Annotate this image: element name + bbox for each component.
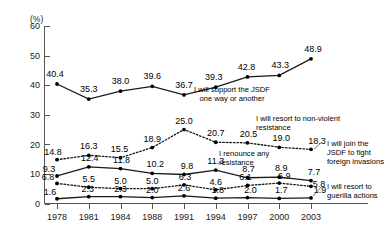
data-point-label: 35.3 [80, 84, 98, 94]
data-point-label: 20.7 [207, 128, 225, 138]
data-point-label: 1.6 [44, 187, 57, 197]
x-tick-label: 2000 [269, 212, 289, 222]
annotation-a2: I will resort to non-violentresistance [256, 114, 341, 132]
data-point-label: 2.0 [244, 185, 257, 195]
data-point-label: 48.9 [304, 44, 322, 54]
y-axis-unit-label: (%) [30, 14, 43, 24]
data-point [87, 165, 91, 169]
chart-canvas: 0102030405060 19781981198419881991199419… [0, 0, 390, 234]
data-point-label: 1.8 [211, 185, 224, 195]
data-point-label: 40.4 [46, 69, 64, 79]
data-point [214, 140, 218, 144]
data-point-label: 42.8 [238, 62, 256, 72]
annotation-line: I will resort to [327, 182, 372, 191]
data-point-label: 6.8 [42, 172, 55, 182]
annotation-line: guerilla actions [327, 191, 378, 200]
data-point [182, 93, 186, 97]
data-point [214, 196, 218, 200]
data-point-label: 14.8 [44, 147, 62, 157]
data-point [182, 128, 186, 132]
data-point [55, 197, 59, 201]
data-point-label: 16.3 [80, 141, 98, 151]
annotation-line: I will resort to non-violent [256, 114, 341, 123]
data-point-label: 20.5 [240, 129, 258, 139]
data-point [246, 75, 250, 79]
y-tick-label: 50 [30, 51, 40, 61]
y-tick-label: 0 [35, 199, 40, 209]
data-point [55, 82, 59, 86]
data-point [119, 89, 123, 93]
data-point-label: 7.7 [308, 167, 321, 177]
data-point [55, 174, 59, 178]
annotation-line: JSDF to fight [327, 148, 372, 157]
x-tick-label: 1991 [174, 212, 194, 222]
annotation-line: I renounce any [219, 149, 269, 158]
x-tick-label: 1981 [79, 212, 99, 222]
data-point-label: 39.6 [143, 71, 161, 81]
data-point-label: 1.7 [275, 185, 288, 195]
data-point-label: 6.1 [239, 172, 252, 182]
data-point-label: 18.3 [308, 136, 326, 146]
data-point-label: 6.9 [278, 171, 291, 181]
data-point [55, 158, 59, 162]
data-point-label: 6.3 [179, 172, 192, 182]
annotation-line: resistance [219, 158, 254, 167]
data-point-label: 10.2 [146, 159, 164, 169]
data-point [246, 196, 250, 200]
data-point-label: 9.8 [181, 161, 194, 171]
data-point-label: 43.3 [271, 60, 289, 70]
data-point [119, 195, 123, 199]
data-point [150, 171, 154, 175]
annotation-line: foreign invasions [327, 157, 384, 166]
data-point-label: 39.3 [205, 72, 223, 82]
data-point [87, 195, 91, 199]
line-chart: 0102030405060 19781981198419881991199419… [0, 0, 390, 234]
annotation-line: I will support the JSDF [194, 85, 270, 94]
y-tick-label: 20 [30, 140, 40, 150]
annotation-line: one way or another [199, 94, 264, 103]
data-point-label: 15.5 [111, 144, 129, 154]
x-axis-ticks: 197819811984198819911994199720002003 [47, 204, 321, 223]
data-point-label: 2.3 [114, 184, 127, 194]
data-point [87, 97, 91, 101]
data-point-label: 19.0 [272, 133, 290, 143]
data-point-label: 12.4 [81, 153, 99, 163]
x-tick-label: 1997 [237, 212, 257, 222]
data-point [309, 147, 313, 151]
annotation-a4: I will join theJSDF to fightforeign inva… [327, 139, 384, 166]
data-point [277, 197, 281, 201]
data-point-label: 36.7 [175, 80, 193, 90]
data-point [119, 167, 123, 171]
annotation-a1: I will support the JSDFone way or anothe… [194, 85, 270, 103]
data-point [55, 181, 59, 185]
x-tick-label: 1984 [110, 212, 130, 222]
annotation-a5: I will resort toguerilla actions [327, 182, 378, 200]
data-point-label: 2.6 [178, 183, 191, 193]
data-point [150, 196, 154, 200]
y-tick-label: 10 [30, 169, 40, 179]
y-tick-label: 30 [30, 110, 40, 120]
data-point [214, 168, 218, 172]
data-point-label: 25.0 [175, 116, 193, 126]
data-point [277, 181, 281, 185]
x-tick-label: 1978 [47, 212, 67, 222]
data-point [309, 196, 313, 200]
x-tick-label: 1988 [142, 212, 162, 222]
data-point-label: 2.0 [146, 185, 159, 195]
data-point [309, 57, 313, 61]
y-tick-label: 40 [30, 80, 40, 90]
data-point [277, 145, 281, 149]
data-point [150, 146, 154, 150]
data-point-label: 38.0 [112, 76, 130, 86]
data-point-label: 18.9 [143, 134, 161, 144]
data-point [246, 141, 250, 145]
annotation-line: resistance [256, 123, 291, 132]
x-tick-label: 2003 [301, 212, 321, 222]
data-point-label: 2.3 [81, 184, 94, 194]
annotation-a3: I renounce anyresistance [219, 149, 269, 167]
data-point-label: 11.8 [113, 155, 130, 165]
annotation-line: I will join the [327, 139, 368, 148]
data-point [182, 194, 186, 198]
data-point [277, 74, 281, 78]
x-tick-label: 1994 [206, 212, 226, 222]
